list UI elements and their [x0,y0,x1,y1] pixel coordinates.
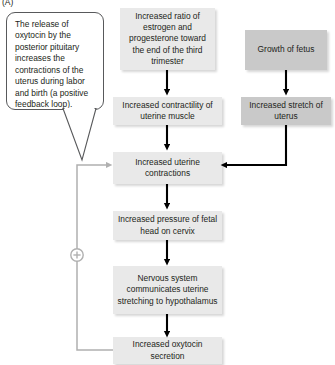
figure-panel: (A) I [0,0,335,365]
edge-stretch-to-contractions [224,125,286,165]
positive-feedback-plus-symbol [71,249,83,261]
oxytocin-explanation-callout-text: The release of oxytocin by the posterior… [15,19,88,109]
oxytocin-explanation-callout: The release of oxytocin by the posterior… [6,12,104,110]
